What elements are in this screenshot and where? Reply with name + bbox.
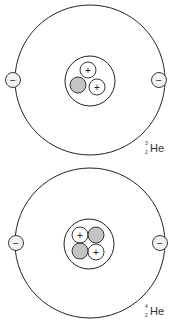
electron-right: − <box>152 73 167 88</box>
atomic-number: 2 <box>145 150 148 155</box>
mass-number: 4 <box>145 304 148 309</box>
electron-left: − <box>6 73 21 88</box>
nucleus-boundary <box>64 219 114 269</box>
electron-right: − <box>153 236 168 251</box>
electron-sign: − <box>13 238 19 249</box>
mass-number: 3 <box>145 141 148 146</box>
electron-left: − <box>9 236 24 251</box>
atom-diagram: − − + + − − <box>0 0 180 327</box>
nucleus: + + <box>64 219 114 269</box>
proton: + <box>72 227 88 243</box>
neutron <box>70 77 86 93</box>
svg-text:+: + <box>85 65 91 76</box>
electron-sign: − <box>156 75 162 86</box>
proton: + <box>89 79 105 95</box>
atom-helium-3: − − + + <box>6 5 167 155</box>
neutron <box>88 227 104 243</box>
svg-text:+: + <box>93 247 99 258</box>
proton: + <box>88 244 104 260</box>
atomic-number: 2 <box>145 313 148 318</box>
electron-sign: − <box>157 238 163 249</box>
electron-sign: − <box>10 75 16 86</box>
nucleus: + + <box>65 56 115 106</box>
atom-helium-4: − − + + <box>9 168 168 318</box>
svg-text:+: + <box>94 82 100 93</box>
element-symbol: He <box>150 306 164 317</box>
neutron <box>72 243 88 259</box>
element-symbol: He <box>150 143 164 154</box>
proton: + <box>80 62 96 78</box>
svg-text:+: + <box>77 230 83 241</box>
